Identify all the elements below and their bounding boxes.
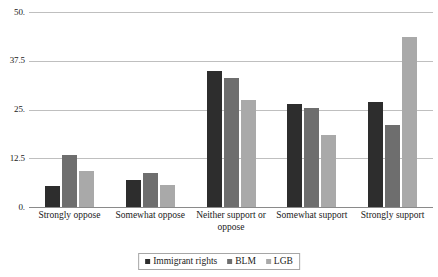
bar (402, 37, 417, 207)
bar (385, 125, 400, 207)
bars-layer (29, 12, 433, 207)
bar (224, 78, 239, 207)
y-axis-tick-label: 25. (14, 105, 25, 114)
legend-label: LGB (274, 256, 293, 266)
chart-legend: Immigrant rightsBLMLGB (138, 253, 300, 270)
bar (368, 102, 383, 207)
legend-item[interactable]: Immigrant rights (145, 256, 217, 266)
x-axis-category-label: Somewhat oppose (106, 210, 195, 222)
legend-label: Immigrant rights (153, 256, 217, 266)
bar (79, 171, 94, 207)
y-axis-tick-label: 50. (14, 8, 25, 17)
x-axis-category-label: Strongly support (348, 210, 437, 222)
axis-baseline (29, 207, 433, 208)
legend-item[interactable]: BLM (227, 256, 256, 266)
y-axis-tick-label: 37.5 (10, 56, 25, 65)
y-axis-labels: 0.12.525.37.550. (0, 0, 29, 207)
legend-item[interactable]: LGB (266, 256, 293, 266)
legend-swatch-icon (227, 259, 232, 264)
legend-swatch-icon (266, 259, 271, 264)
legend-label: BLM (235, 256, 256, 266)
x-axis-category-label: Somewhat support (267, 210, 356, 222)
x-axis-category-label: Neither support or oppose (187, 210, 276, 233)
bar (126, 180, 141, 207)
bar (321, 135, 336, 207)
x-axis-category-label: Strongly oppose (25, 210, 114, 222)
legend-swatch-icon (145, 259, 150, 264)
bar (160, 185, 175, 207)
y-axis-tick-label: 12.5 (10, 154, 25, 163)
bar (207, 71, 222, 208)
bar (45, 186, 60, 207)
bar (241, 100, 256, 207)
x-axis-labels: Strongly opposeSomewhat opposeNeither su… (29, 210, 433, 244)
bar (304, 108, 319, 207)
bar (62, 155, 77, 207)
bar (143, 173, 158, 207)
bar-chart: 0.12.525.37.550. Strongly opposeSomewhat… (0, 0, 438, 277)
bar (287, 104, 302, 207)
